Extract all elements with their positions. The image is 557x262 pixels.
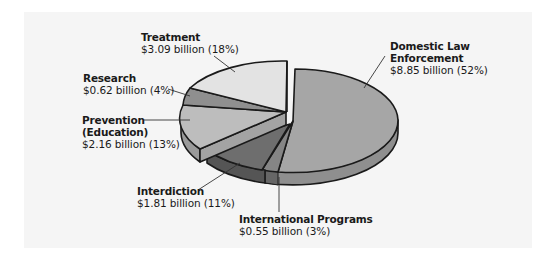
label-research-value: $0.62 billion (4%): [83, 84, 174, 96]
label-domestic-value: $8.85 billion (52%): [390, 64, 488, 76]
label-interdiction: Interdiction $1.81 billion (11%): [137, 185, 235, 209]
label-domestic: Domestic Law Enforcement $8.85 billion (…: [390, 40, 488, 76]
label-treatment-value: $3.09 billion (18%): [141, 43, 239, 55]
label-international-value: $0.55 billion (3%): [239, 225, 373, 237]
label-prevention-value: $2.16 billion (13%): [82, 138, 180, 150]
label-domestic-name-2: Enforcement: [390, 52, 488, 64]
label-interdiction-name: Interdiction: [137, 185, 235, 197]
label-domestic-name-1: Domestic Law: [390, 40, 488, 52]
label-international-name: International Programs: [239, 213, 373, 225]
label-interdiction-value: $1.81 billion (11%): [137, 197, 235, 209]
label-treatment-name: Treatment: [141, 31, 239, 43]
label-research: Research $0.62 billion (4%): [83, 72, 174, 96]
label-international: International Programs $0.55 billion (3%…: [239, 213, 373, 237]
label-prevention: Prevention (Education) $2.16 billion (13…: [82, 114, 180, 150]
label-research-name: Research: [83, 72, 174, 84]
label-treatment: Treatment $3.09 billion (18%): [141, 31, 239, 55]
label-prevention-name-2: (Education): [82, 126, 180, 138]
label-prevention-name-1: Prevention: [82, 114, 180, 126]
